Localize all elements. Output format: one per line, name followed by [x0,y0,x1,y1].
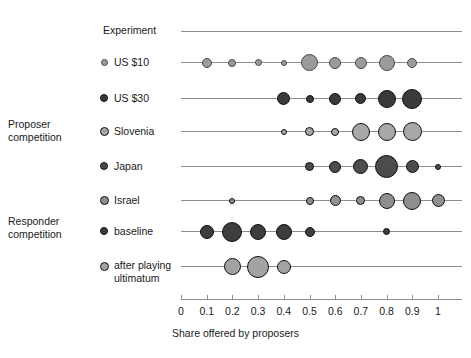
x-tick-label-0.2: 0.2 [225,305,240,317]
x-tick-label-0.7: 0.7 [354,305,369,317]
x-axis-title: Share offered by proposers [0,327,471,339]
bubble-chart-figure: Proposer competitionResponder competitio… [0,0,471,358]
x-tick-0.2 [232,295,233,300]
bubble-us-10-0.1 [202,58,212,68]
bubble-us-30-0.4 [277,92,290,105]
x-tick-label-0.9: 0.9 [405,305,420,317]
x-tick-1 [438,295,439,300]
group-label-proposer-competition: Proposer competition [8,118,98,143]
x-tick-0.1 [207,295,208,300]
bubble-us-30-0.9 [402,89,422,109]
bubble-baseline-0.5 [305,227,315,237]
bubble-after-playing-ultimatum-0.4 [277,260,291,274]
bubble-israel-0.6 [330,195,341,206]
legend-marker-after-playing-ultimatum [100,262,109,271]
experiment-header-label: Experiment [103,24,156,36]
bubble-israel-1 [432,194,445,207]
bubble-us-10-0.7 [355,57,367,69]
bubble-us-30-0.8 [378,90,396,108]
bubble-slovenia-0.4 [281,129,287,135]
bubble-after-playing-ultimatum-0.3 [247,256,269,278]
bubble-israel-0.8 [379,193,395,209]
bubble-us-10-0.9 [407,58,417,68]
x-tick-0.7 [361,295,362,300]
bubble-japan-0.5 [305,162,314,171]
bubble-baseline-0.3 [250,224,266,240]
bubble-us-10-0.4 [281,60,287,66]
row-rule-us-10 [181,62,462,63]
x-tick-label-0: 0 [178,305,184,317]
bubble-us-30-0.6 [329,93,341,105]
x-tick-label-0.5: 0.5 [302,305,317,317]
x-tick-0.3 [258,295,259,300]
x-tick-label-0.3: 0.3 [251,305,266,317]
bubble-us-30-0.7 [355,93,366,104]
bubble-slovenia-0.9 [403,122,422,141]
row-label-baseline: baseline [114,225,194,238]
row-label-us-30: US $30 [114,92,194,105]
x-tick-label-1: 1 [435,305,441,317]
legend-marker-japan [100,162,108,170]
x-tick-0.9 [412,295,413,300]
legend-marker-israel [100,196,109,205]
bubble-baseline-0.8 [383,228,390,235]
group-label-responder-competition: Responder competition [8,215,98,240]
bubble-japan-0.8 [375,155,398,178]
bubble-japan-0.7 [353,159,368,174]
bubble-slovenia-0.7 [352,123,370,141]
x-tick-0.5 [310,295,311,300]
bubble-us-10-0.6 [329,57,341,69]
bubble-japan-0.6 [329,161,341,173]
legend-marker-baseline [100,227,108,235]
bubble-israel-0.9 [403,192,421,210]
bubble-us-10-0.2 [228,59,236,67]
x-tick-0 [181,295,182,300]
bubble-baseline-0.1 [200,225,214,239]
x-tick-0.4 [284,295,285,300]
bubble-israel-0.7 [356,196,365,205]
x-axis-line [181,299,462,300]
x-tick-label-0.1: 0.1 [199,305,214,317]
row-label-after-playing-ultimatum: after playing ultimatum [114,259,194,284]
bubble-slovenia-0.6 [331,128,339,136]
experiment-header-rule [181,31,462,32]
legend-marker-slovenia [100,127,109,136]
bubble-us-10-0.5 [301,54,318,71]
row-label-israel: Israel [114,194,194,207]
row-label-japan: Japan [114,160,194,173]
x-tick-0.8 [387,295,388,300]
bubble-israel-0.5 [306,197,314,205]
legend-marker-us-10 [101,59,108,66]
row-label-slovenia: Slovenia [114,125,194,138]
bubble-us-10-0.3 [255,59,262,66]
bubble-us-10-0.8 [379,55,395,71]
bubble-baseline-0.4 [276,224,292,240]
x-tick-label-0.4: 0.4 [276,305,291,317]
x-tick-0.6 [335,295,336,300]
bubble-baseline-0.2 [222,222,242,242]
bubble-after-playing-ultimatum-0.2 [224,258,241,275]
bubble-japan-0.9 [406,160,419,173]
row-rule-japan [181,166,462,167]
x-tick-label-0.6: 0.6 [328,305,343,317]
bubble-slovenia-0.8 [378,123,396,141]
bubble-israel-0.2 [229,198,235,204]
bubble-us-30-0.5 [306,95,314,103]
x-tick-label-0.8: 0.8 [379,305,394,317]
legend-marker-us-30 [100,94,108,102]
row-label-us-10: US $10 [114,56,194,69]
bubble-japan-1 [435,164,441,170]
bubble-slovenia-0.5 [305,127,314,136]
